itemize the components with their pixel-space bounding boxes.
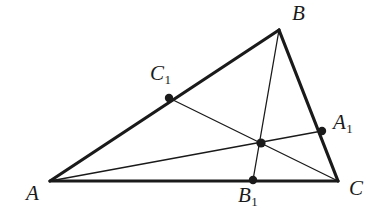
- subscript-1: 1: [346, 121, 353, 136]
- point-centroid: [256, 138, 265, 147]
- vertex-label-b: B: [292, 3, 305, 24]
- point-A1: [318, 127, 326, 135]
- geometry-figure: A B C A1 B1 C1: [0, 0, 389, 223]
- point-C1: [165, 94, 173, 102]
- subscript-1: 1: [251, 194, 258, 209]
- point-label-c1: C1: [150, 63, 171, 86]
- triangle-diagram-svg: [0, 0, 389, 223]
- point-label-b1: B1: [238, 185, 258, 208]
- cevian-C-C1: [169, 98, 338, 181]
- subscript-1: 1: [164, 72, 171, 87]
- vertex-label-a: A: [26, 183, 39, 204]
- point-label-a1: A1: [333, 112, 353, 135]
- vertex-label-c: C: [349, 178, 363, 199]
- cevian-B-B1: [253, 30, 279, 180]
- side-AB: [50, 30, 279, 181]
- side-BC: [279, 30, 338, 181]
